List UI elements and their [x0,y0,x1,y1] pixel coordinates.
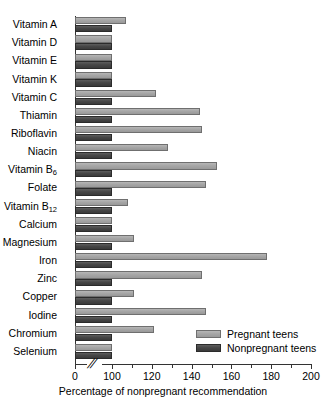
bar-row: Iron [75,252,311,270]
bar-pregnant [75,181,206,188]
x-axis-tick [192,364,193,369]
bar-nonpregnant [75,261,112,268]
bar-row: Vitamin A [75,16,311,34]
bar-row: Niacin [75,143,311,161]
x-axis-line [75,364,311,365]
legend-label-nonpregnant: Nonpregnant teens [227,342,316,354]
bar-nonpregnant [75,297,112,304]
legend-swatch-nonpregnant-icon [196,344,221,352]
legend: Pregnant teens Nonpregnant teens [196,327,316,355]
y-axis-category-label: Zinc [0,273,57,284]
bar-nonpregnant [75,98,112,105]
x-axis-tick-label: 100 [92,370,132,382]
y-axis-category-label: Vitamin D [0,37,57,48]
bar-nonpregnant [75,279,112,286]
bar-nonpregnant [75,334,112,341]
bar-pregnant [75,72,112,79]
bar-pregnant [75,308,206,315]
bar-row: Folate [75,179,311,197]
x-axis-minor-tick [251,364,252,368]
bar-row: Magnesium [75,234,311,252]
bar-nonpregnant [75,207,112,214]
chart-container: Vitamin AVitamin DVitamin EVitamin KVita… [0,0,326,409]
bar-pregnant [75,162,217,169]
bar-pregnant [75,35,112,42]
bar-row: Calcium [75,216,311,234]
y-axis-category-label: Vitamin B12 [0,201,57,213]
x-axis-minor-tick [132,364,133,368]
bar-nonpregnant [75,152,112,159]
bar-pregnant [75,271,202,278]
bar-pregnant [75,326,154,333]
legend-swatch-pregnant-icon [196,330,221,338]
y-axis-category-label: Vitamin K [0,74,57,85]
y-axis-category-label: Thiamin [0,110,57,121]
y-axis-category-label: Iron [0,255,57,266]
bar-nonpregnant [75,43,112,50]
y-axis-category-label: Copper [0,291,57,302]
bar-row: Vitamin K [75,70,311,88]
bar-pregnant [75,144,168,151]
x-axis-minor-tick [291,364,292,368]
bar-row: Vitamin B6 [75,161,311,179]
bar-pregnant [75,17,126,24]
bar-row: Vitamin C [75,89,311,107]
bar-nonpregnant [75,170,112,177]
plot-area: Vitamin AVitamin DVitamin EVitamin KVita… [75,16,311,361]
x-axis-minor-tick [212,364,213,368]
x-axis-title: Percentage of nonpregnant recommendation [0,385,326,397]
bar-pregnant [75,54,112,61]
bar-nonpregnant [75,316,112,323]
bar-row: Zinc [75,270,311,288]
x-axis-tick [152,364,153,369]
bar-row: Vitamin E [75,52,311,70]
x-axis-tick-label: 140 [172,370,212,382]
legend-label-pregnant: Pregnant teens [227,328,298,340]
bar-nonpregnant [75,25,112,32]
x-axis-tick [271,364,272,369]
y-axis-category-label: Vitamin A [0,19,57,30]
bar-nonpregnant [75,61,112,68]
x-axis-tick-label: 200 [291,370,326,382]
bar-pregnant [75,344,112,351]
x-axis-tick [112,364,113,369]
bar-row: Vitamin D [75,34,311,52]
x-axis-tick-label: 120 [132,370,172,382]
bar-nonpregnant [75,116,112,123]
bar-pregnant [75,253,267,260]
bar-row: Iodine [75,307,311,325]
bar-row: Riboflavin [75,125,311,143]
bar-nonpregnant [75,188,112,195]
y-axis-category-label: Riboflavin [0,128,57,139]
bar-row: Copper [75,288,311,306]
x-axis-tick [311,364,312,369]
bar-pregnant [75,235,134,242]
y-axis-category-label: Magnesium [0,237,57,248]
bar-pregnant [75,217,112,224]
y-axis-category-label: Vitamin C [0,92,57,103]
legend-item-pregnant: Pregnant teens [196,327,316,341]
y-axis-category-label: Niacin [0,146,57,157]
bar-nonpregnant [75,79,112,86]
bar-pregnant [75,108,200,115]
y-axis-category-label: Calcium [0,219,57,230]
x-axis-tick-label: 160 [211,370,251,382]
bar-nonpregnant [75,225,112,232]
y-axis-category-label: Chromium [0,328,57,339]
x-axis-tick [231,364,232,369]
x-axis-minor-tick [172,364,173,368]
x-axis-tick-label: 180 [251,370,291,382]
y-axis-category-label: Selenium [0,346,57,357]
y-axis-category-label: Folate [0,182,57,193]
bar-pregnant [75,90,156,97]
x-axis-tick-label: 0 [55,370,95,382]
legend-item-nonpregnant: Nonpregnant teens [196,341,316,355]
bar-pregnant [75,199,128,206]
bar-nonpregnant [75,243,112,250]
y-axis-category-label: Vitamin E [0,55,57,66]
bar-row: Thiamin [75,107,311,125]
bar-row: Vitamin B12 [75,198,311,216]
bar-nonpregnant [75,134,112,141]
bar-pregnant [75,290,134,297]
bar-pregnant [75,126,202,133]
